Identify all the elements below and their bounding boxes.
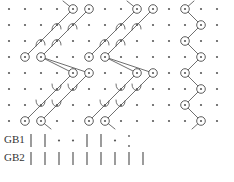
state-node-center-dot <box>40 120 42 122</box>
lattice-dot <box>168 72 170 74</box>
state-node-center-dot <box>184 104 186 106</box>
lattice-dot <box>56 120 58 122</box>
staircase-strand <box>89 73 137 121</box>
lattice-dot <box>8 40 10 42</box>
lattice-dot <box>216 8 218 10</box>
lattice-dot <box>120 8 122 10</box>
lattice-dot <box>88 24 90 26</box>
state-node-center-dot <box>136 8 138 10</box>
lattice-dot <box>40 88 42 90</box>
corner-diagonal <box>41 57 89 73</box>
lattice-dot <box>24 72 26 74</box>
staircase-strand <box>25 73 73 121</box>
lattice-dot <box>120 120 122 122</box>
lattice-dot <box>152 40 154 42</box>
lattice-dot <box>152 88 154 90</box>
state-node-center-dot <box>24 56 26 58</box>
state-node-center-dot <box>152 8 154 10</box>
lattice-dot <box>168 8 170 10</box>
lattice-dot <box>168 56 170 58</box>
state-node-center-dot <box>40 56 42 58</box>
state-node-center-dot <box>88 72 90 74</box>
lattice-dot <box>168 40 170 42</box>
state-node-center-dot <box>72 8 74 10</box>
state-node-center-dot <box>200 88 202 90</box>
lattice-dot <box>136 120 138 122</box>
lattice-dot <box>72 120 74 122</box>
lattice-dot <box>216 40 218 42</box>
state-node-center-dot <box>200 56 202 58</box>
state-node-center-dot <box>88 56 90 58</box>
state-node-center-dot <box>24 120 26 122</box>
lattice-dot <box>152 24 154 26</box>
corner-diagonal <box>41 57 73 73</box>
lattice-dot <box>40 24 42 26</box>
axis-dot-small <box>128 135 130 137</box>
staircase-strand <box>41 73 89 121</box>
lattice-dot <box>72 104 74 106</box>
connection-links <box>25 1 201 129</box>
lattice-dot <box>184 120 186 122</box>
lattice-dot <box>136 56 138 58</box>
lattice-dot <box>168 24 170 26</box>
lattice-dot <box>8 8 10 10</box>
state-node-center-dot <box>184 8 186 10</box>
lattice-dot <box>8 72 10 74</box>
state-node-center-dot <box>104 56 106 58</box>
lattice-dot <box>136 40 138 42</box>
lattice-dot <box>200 104 202 106</box>
staircase-strand <box>25 9 73 57</box>
lattice-dot <box>152 56 154 58</box>
lattice-dot <box>168 120 170 122</box>
state-node-center-dot <box>88 8 90 10</box>
state-node-center-dot <box>184 72 186 74</box>
lattice-dot <box>8 88 10 90</box>
lattice-dot <box>56 72 58 74</box>
lattice-dot <box>40 72 42 74</box>
lattice-dot <box>8 104 10 106</box>
lattice-dot <box>216 104 218 106</box>
group-bar-axis <box>31 134 143 165</box>
axis-dot <box>114 139 116 141</box>
state-node-center-dot <box>152 72 154 74</box>
lattice-dot <box>120 72 122 74</box>
axis-dot <box>72 139 74 141</box>
lattice-dot <box>24 88 26 90</box>
lattice-dot <box>184 88 186 90</box>
lattice-dot <box>72 40 74 42</box>
corner-diagonal <box>105 57 137 73</box>
diagram-canvas: GB1 GB2 <box>0 0 234 182</box>
corner-diagonal <box>105 57 153 73</box>
lattice-dot <box>88 104 90 106</box>
lattice-dot <box>56 56 58 58</box>
state-node-center-dot <box>104 120 106 122</box>
lattice-dot <box>8 56 10 58</box>
lattice-trellis-diagram: GB1 GB2 <box>0 0 234 182</box>
state-node-center-dot <box>184 40 186 42</box>
lattice-dot <box>152 120 154 122</box>
lattice-dot <box>200 40 202 42</box>
staircase-strand <box>89 9 137 57</box>
lattice-dot <box>168 104 170 106</box>
lattice-dot <box>120 56 122 58</box>
staircase-strand <box>41 9 89 57</box>
lattice-dot <box>168 88 170 90</box>
lattice-dot <box>184 56 186 58</box>
lattice-dot <box>56 8 58 10</box>
state-node-center-dot <box>200 120 202 122</box>
lattice-dot <box>24 8 26 10</box>
lattice-dot <box>216 56 218 58</box>
lattice-dot <box>72 56 74 58</box>
staircase-strand <box>105 73 153 121</box>
state-nodes <box>21 5 206 126</box>
state-node-center-dot <box>200 24 202 26</box>
lattice-dot <box>24 104 26 106</box>
lattice-dot <box>24 24 26 26</box>
lattice-dot <box>216 120 218 122</box>
axis-row-label-gb2: GB2 <box>4 151 25 163</box>
lattice-dot <box>136 104 138 106</box>
state-node-center-dot <box>72 72 74 74</box>
axis-dot <box>58 139 60 141</box>
lattice-dot <box>216 72 218 74</box>
lattice-dot <box>216 24 218 26</box>
